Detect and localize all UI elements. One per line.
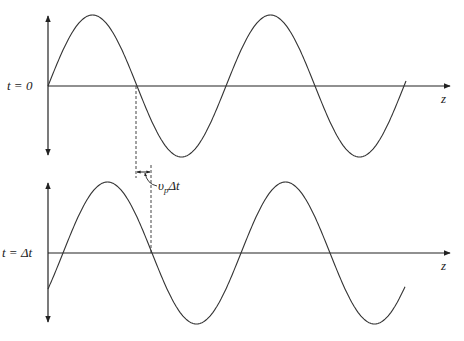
panel-top: t = 0 z: [7, 15, 450, 157]
label-leader: [145, 173, 157, 186]
time-label-bottom: t = Δt: [2, 245, 33, 260]
phase-velocity-label: υpΔt: [158, 178, 180, 195]
z-label-bottom: z: [440, 258, 446, 273]
time-label-top: t = 0: [7, 78, 33, 93]
wave-diagram: t = 0 z υpΔt t = Δt z: [0, 0, 464, 341]
panel-bottom: t = Δt z: [2, 182, 450, 324]
displacement-marker: υpΔt: [136, 86, 180, 253]
z-label-top: z: [440, 91, 446, 106]
